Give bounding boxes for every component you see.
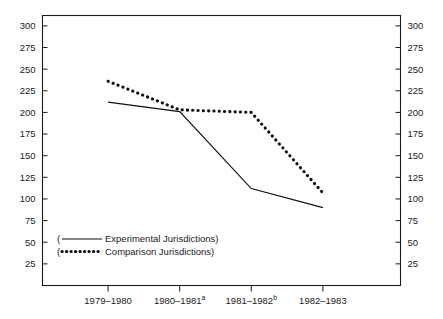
y-tick-label-left: 25	[25, 258, 36, 269]
y-tick-label-left: 75	[25, 215, 36, 226]
y-tick-label-right: 75	[408, 215, 419, 226]
y-tick-label-left: 125	[20, 172, 36, 183]
chart-legend: (Experimental Jurisdictions)(Comparison …	[57, 233, 219, 257]
y-tick-label-left: 100	[20, 193, 36, 204]
line-chart: 255075100125150175200225250275300 255075…	[0, 0, 443, 319]
x-tick-label: 1981–1982b	[226, 294, 278, 306]
y-tick-label-right: 275	[408, 42, 424, 53]
y-tick-label-right: 175	[408, 128, 424, 139]
y-axis-right: 255075100125150175200225250275300	[396, 20, 424, 269]
y-tick-label-right: 300	[408, 20, 424, 31]
y-tick-label-right: 225	[408, 85, 424, 96]
y-axis-left: 255075100125150175200225250275300	[20, 20, 48, 269]
x-tick-label: 1980–1981a	[154, 294, 206, 306]
legend-open-paren: (	[57, 233, 61, 244]
x-tick-footnote: a	[202, 294, 206, 301]
y-tick-label-right: 50	[408, 237, 419, 248]
y-tick-label-left: 250	[20, 64, 36, 75]
y-tick-label-left: 50	[25, 237, 36, 248]
legend-label: Comparison Jurisdictions)	[105, 246, 214, 257]
y-tick-label-left: 300	[20, 20, 36, 31]
y-tick-label-right: 200	[408, 107, 424, 118]
y-tick-label-left: 200	[20, 107, 36, 118]
data-series-layer	[108, 81, 323, 207]
y-tick-label-right: 125	[408, 172, 424, 183]
series-line-2	[108, 81, 323, 193]
x-axis: 1979–19801980–1981a1981–1982b1982–1983	[84, 286, 346, 306]
legend-label: Experimental Jurisdictions)	[105, 233, 219, 244]
y-tick-label-right: 250	[408, 64, 424, 75]
legend-open-paren: (	[57, 246, 61, 257]
y-tick-label-left: 225	[20, 85, 36, 96]
y-tick-label-left: 150	[20, 150, 36, 161]
y-tick-label-left: 175	[20, 128, 36, 139]
y-tick-label-right: 150	[408, 150, 424, 161]
y-tick-label-right: 100	[408, 193, 424, 204]
chart-figure: 255075100125150175200225250275300 255075…	[0, 0, 443, 319]
plot-frame	[43, 16, 401, 286]
y-tick-label-left: 275	[20, 42, 36, 53]
x-tick-footnote: b	[273, 294, 277, 301]
x-tick-label: 1979–1980	[84, 295, 132, 306]
x-tick-label: 1982–1983	[299, 295, 347, 306]
y-tick-label-right: 25	[408, 258, 419, 269]
